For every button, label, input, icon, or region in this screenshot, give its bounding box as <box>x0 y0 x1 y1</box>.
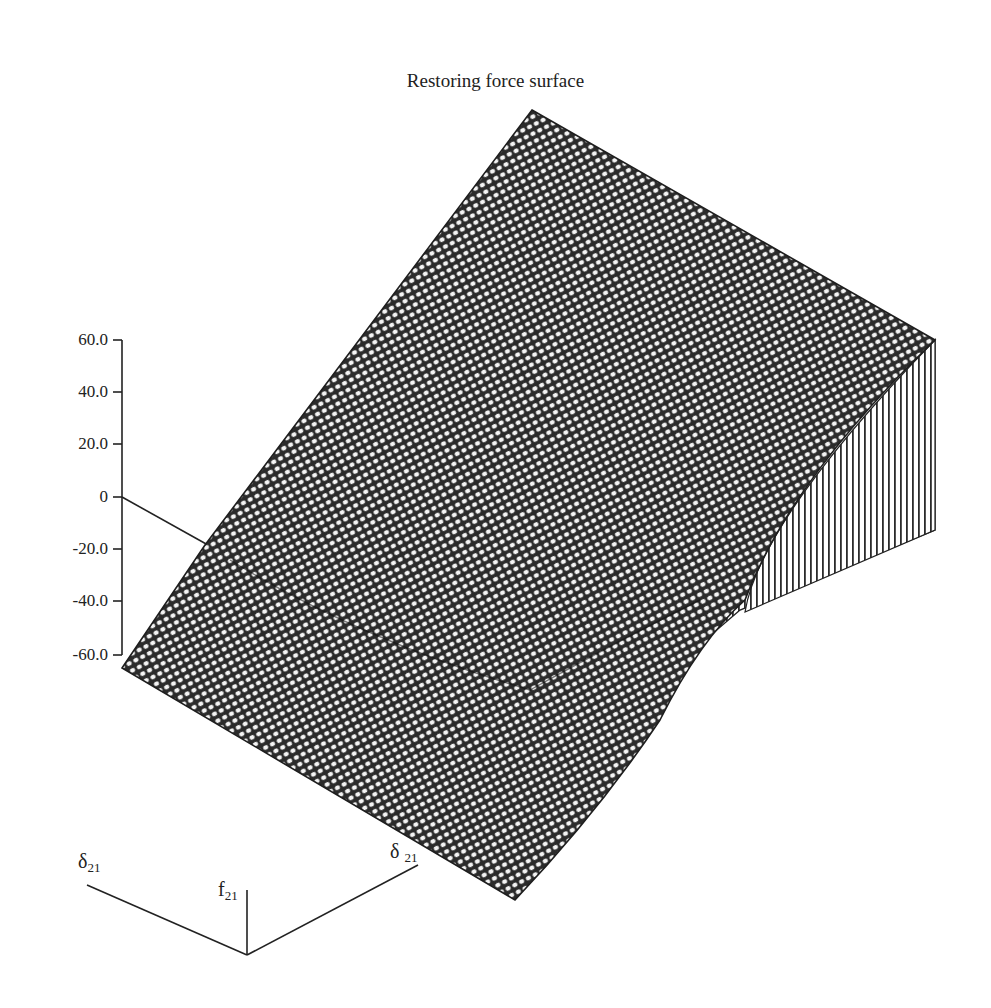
z-axis-symbol: f <box>218 878 225 900</box>
y-axis-label: δ 21 <box>390 840 417 866</box>
z-axis-label: f21 <box>218 878 238 904</box>
x-axis-subscript: 21 <box>87 860 100 875</box>
z-tick-label: -20.0 <box>28 539 108 559</box>
z-tick-label: 20.0 <box>28 434 108 454</box>
z-tick-label: -60.0 <box>28 645 108 665</box>
z-tick-label: 60.0 <box>28 330 108 350</box>
z-tick-label: 0 <box>28 487 108 507</box>
z-tick-label: 40.0 <box>28 382 108 402</box>
y-axis-subscript: 21 <box>404 850 417 865</box>
axis-triad <box>87 865 418 955</box>
x-axis-label: δ21 <box>78 850 100 876</box>
chart-title: Restoring force surface <box>0 70 991 92</box>
surface-chart <box>0 0 991 1008</box>
z-tick-label: -40.0 <box>28 591 108 611</box>
z-axis-subscript: 21 <box>225 888 238 903</box>
y-axis-symbol: δ <box>390 840 399 862</box>
